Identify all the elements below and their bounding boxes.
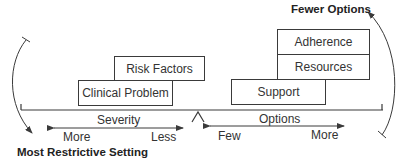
resources-label: Resources bbox=[295, 60, 352, 74]
clinical-problem-label: Clinical Problem bbox=[82, 86, 169, 100]
adherence-label: Adherence bbox=[294, 35, 352, 49]
most-restrictive-setting-caption: Most Restrictive Setting bbox=[17, 146, 148, 158]
resources-box: Resources bbox=[277, 54, 370, 80]
options-few-label: Few bbox=[218, 129, 241, 143]
support-box: Support bbox=[231, 79, 326, 105]
severity-title: Severity bbox=[97, 113, 140, 127]
support-label: Support bbox=[257, 85, 299, 99]
risk-factors-box: Risk Factors bbox=[114, 56, 205, 81]
adherence-box: Adherence bbox=[277, 29, 370, 55]
clinical-problem-box: Clinical Problem bbox=[78, 80, 173, 106]
options-title: Options bbox=[259, 112, 300, 126]
severity-more-label: More bbox=[63, 130, 90, 144]
fulcrum-icon bbox=[192, 112, 204, 122]
right-curved-arrow bbox=[368, 12, 395, 138]
balance-beam bbox=[21, 104, 383, 110]
fewer-options-caption: Fewer Options bbox=[291, 3, 371, 15]
options-more-label: More bbox=[311, 128, 338, 142]
severity-less-label: Less bbox=[151, 130, 176, 144]
risk-factors-label: Risk Factors bbox=[126, 62, 193, 76]
scale-diagram-lines bbox=[0, 0, 403, 166]
left-curved-arrow bbox=[12, 37, 32, 133]
